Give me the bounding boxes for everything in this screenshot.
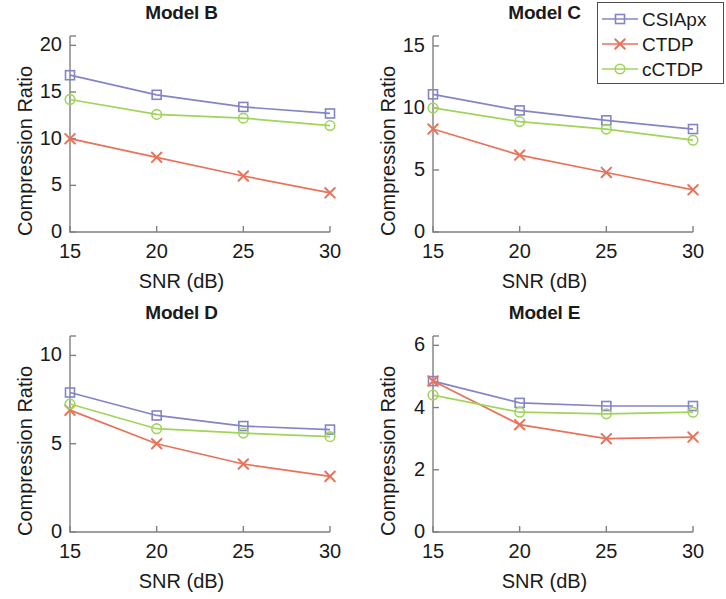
y-tick-label: 5: [16, 432, 62, 455]
y-tick-label: 10: [379, 96, 425, 119]
y-tick-label: 15: [379, 34, 425, 57]
axis-lines: [433, 336, 693, 532]
x-tick-label: 25: [584, 540, 628, 563]
figure-root: Model B Compression Ratio SNR (dB) 05101…: [0, 0, 726, 599]
series-ctdp: [428, 376, 698, 443]
square-marker-icon: [598, 7, 642, 31]
legend-item-cctdp[interactable]: cCTDP: [598, 56, 725, 82]
legend-item-ctdp[interactable]: CTDP: [598, 31, 725, 57]
y-tick-label: 20: [16, 33, 62, 56]
y-tick-label: 5: [16, 173, 62, 196]
legend-label: cCTDP: [642, 60, 703, 79]
x-tick-label: 20: [135, 240, 179, 263]
x-tick-label: 25: [584, 240, 628, 263]
x-tick-label: 30: [671, 540, 715, 563]
x-tick-label: 20: [498, 240, 542, 263]
legend-label: CTDP: [642, 35, 694, 54]
y-tick-label: 15: [16, 80, 62, 103]
x-tick-label: 15: [411, 240, 455, 263]
chart-legend: CSIApxCTDPcCTDP: [597, 2, 724, 84]
series-csiapx: [429, 90, 698, 134]
x-tick-label: 25: [221, 240, 265, 263]
legend-label: CSIApx: [642, 10, 706, 29]
x-tick-label: 15: [48, 540, 92, 563]
legend-item-csiapx[interactable]: CSIApx: [598, 6, 725, 32]
y-tick-label: 6: [379, 333, 425, 356]
series-cctdp: [428, 103, 698, 145]
series-ctdp: [65, 405, 335, 481]
circle-marker-icon: [598, 57, 642, 81]
axis-lines: [70, 336, 330, 532]
x-tick-label: 15: [411, 540, 455, 563]
x-tick-label: 20: [135, 540, 179, 563]
y-tick-label: 5: [379, 158, 425, 181]
x-tick-label: 15: [48, 240, 92, 263]
chart-panel-model-e: Model E Compression Ratio SNR (dB) 02461…: [363, 300, 726, 599]
x-tick-label: 20: [498, 540, 542, 563]
y-tick-label: 10: [16, 343, 62, 366]
x-tick-label: 25: [221, 540, 265, 563]
y-tick-label: 4: [379, 396, 425, 419]
x-tick-label: 30: [308, 240, 352, 263]
series-csiapx: [66, 388, 335, 434]
axis-lines: [70, 36, 330, 232]
series-csiapx: [429, 377, 698, 411]
chart-panel-model-b: Model B Compression Ratio SNR (dB) 05101…: [0, 0, 363, 299]
y-tick-label: 10: [16, 127, 62, 150]
cross-marker-icon: [598, 32, 642, 56]
y-tick-label: 2: [379, 458, 425, 481]
x-tick-label: 30: [671, 240, 715, 263]
series-csiapx: [66, 71, 335, 118]
x-tick-label: 30: [308, 540, 352, 563]
chart-panel-model-d: Model D Compression Ratio SNR (dB) 05101…: [0, 300, 363, 599]
series-ctdp: [65, 134, 335, 198]
